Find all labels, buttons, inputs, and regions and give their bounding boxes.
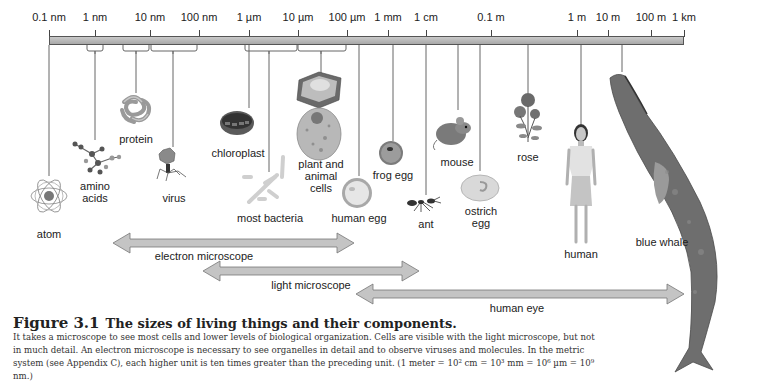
figure-caption-body: It takes a microscope to see most cells … bbox=[13, 331, 603, 383]
light-microscope-arrow bbox=[203, 261, 419, 281]
figure-title: The sizes of living things and their com… bbox=[106, 316, 457, 331]
label-human-eye: human eye bbox=[490, 302, 544, 314]
label-light-microscope: light microscope bbox=[271, 279, 350, 291]
label-electron-microscope: electron microscope bbox=[155, 250, 253, 262]
human-eye-arrow bbox=[356, 284, 684, 304]
figure-caption-title: Figure 3.1The sizes of living things and… bbox=[13, 314, 457, 332]
figure-number: Figure 3.1 bbox=[13, 314, 100, 332]
